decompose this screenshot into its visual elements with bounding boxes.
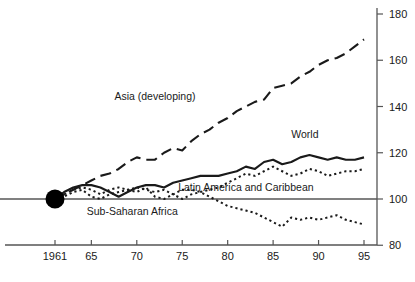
x-axis-tick-label: 90 [312,250,324,262]
chart-container: 19616570758085909580100120140160180 Asia… [0,0,415,282]
y-axis-tick-label: 140 [389,101,407,113]
tick-label-layer: 19616570758085909580100120140160180 [43,8,408,262]
x-axis-tick-label: 75 [176,250,188,262]
x-axis-tick-label: 95 [358,250,370,262]
x-axis-tick-label: 80 [222,250,234,262]
x-axis-tick-label: 65 [85,250,97,262]
y-axis-tick-label: 80 [389,239,401,251]
x-axis-tick-label: 70 [131,250,143,262]
y-axis-tick-label: 160 [389,54,407,66]
series-label-2: Latin America and Caribbean [178,181,314,193]
origin-marker-dot [46,190,65,209]
x-axis-tick-label: 1961 [43,250,67,262]
y-axis-tick-label: 180 [389,8,407,20]
x-axis-tick-label: 85 [267,250,279,262]
axis-layer [5,8,383,245]
series-label-0: Asia (developing) [114,90,195,102]
y-axis-tick-label: 100 [389,193,407,205]
chart-svg: 19616570758085909580100120140160180 Asia… [0,0,415,282]
y-axis-tick-label: 120 [389,147,407,159]
series-label-1: World [291,128,318,140]
series-label-3: Sub-Saharan Africa [87,205,178,217]
origin-marker-layer [46,190,65,209]
